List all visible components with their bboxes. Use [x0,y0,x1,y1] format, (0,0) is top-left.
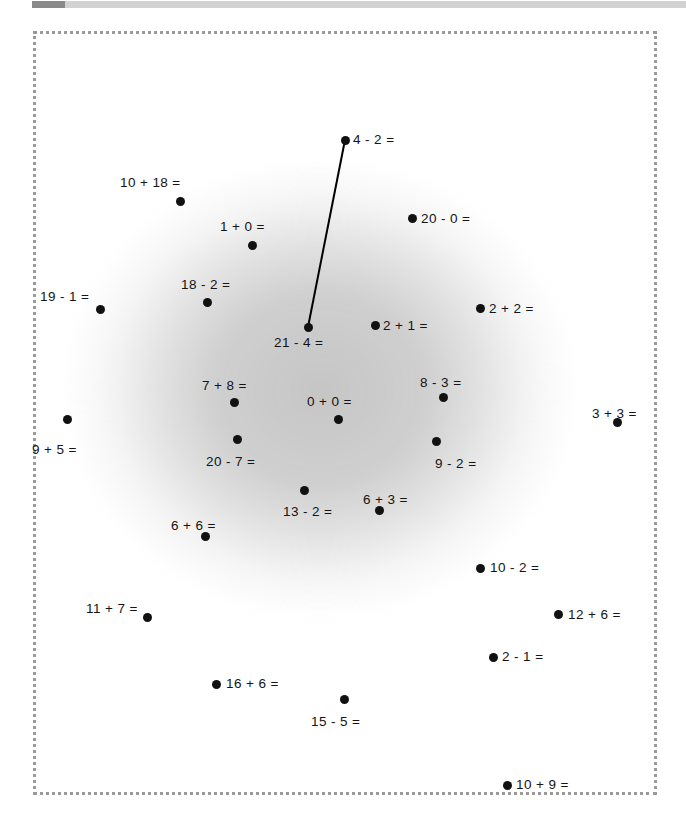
annotation-label: 2 - 1 = [502,650,543,664]
annotation-point[interactable] [503,781,512,790]
annotation-point[interactable] [371,321,380,330]
annotation-label: 2 + 2 = [489,302,534,316]
annotation-label: 20 - 0 = [421,212,470,226]
annotation-point[interactable] [439,393,448,402]
annotation-point[interactable] [248,241,257,250]
annotation-point[interactable] [96,305,105,314]
annotation-point[interactable] [340,695,349,704]
annotation-point[interactable] [230,398,239,407]
scrollbar-track[interactable] [32,1,686,8]
annotation-label: 6 + 6 = [171,519,216,533]
annotation-point[interactable] [476,564,485,573]
annotation-label: 9 + 5 = [32,443,77,457]
annotation-label: 0 + 0 = [307,395,352,409]
annotation-label: 15 - 5 = [311,715,360,729]
annotation-point[interactable] [334,415,343,424]
annotation-point[interactable] [300,486,309,495]
annotation-point[interactable] [63,415,72,424]
annotation-point[interactable] [143,613,152,622]
annotation-point[interactable] [176,197,185,206]
annotation-point-layer[interactable]: 4 - 2 =10 + 18 =1 + 0 =20 - 0 =19 - 1 =1… [0,9,686,813]
scanned-worksheet[interactable]: 4 - 2 =10 + 18 =1 + 0 =20 - 0 =19 - 1 =1… [0,9,686,813]
annotation-label: 16 + 6 = [226,677,279,691]
annotation-label: 9 - 2 = [435,457,476,471]
annotation-point[interactable] [432,437,441,446]
annotation-label: 7 + 8 = [202,379,247,393]
annotation-label: 10 - 2 = [490,561,539,575]
annotation-point[interactable] [304,323,313,332]
annotation-label: 8 - 3 = [420,376,461,390]
annotation-point[interactable] [489,653,498,662]
horizontal-scrollbar[interactable] [0,0,686,9]
annotation-label: 4 - 2 = [353,133,394,147]
annotation-label: 13 - 2 = [283,505,332,519]
annotation-canvas-app: 4 - 2 =10 + 18 =1 + 0 =20 - 0 =19 - 1 =1… [0,0,686,813]
annotation-point[interactable] [212,680,221,689]
annotation-point[interactable] [341,136,350,145]
annotation-point[interactable] [476,304,485,313]
annotation-label: 19 - 1 = [40,290,89,304]
annotation-point[interactable] [408,214,417,223]
annotation-label: 2 + 1 = [383,319,428,333]
annotation-label: 10 + 18 = [120,176,181,190]
annotation-label: 20 - 7 = [206,455,255,469]
annotation-label: 21 - 4 = [274,336,323,350]
annotation-label: 18 - 2 = [181,278,230,292]
annotation-point[interactable] [233,435,242,444]
annotation-point[interactable] [203,298,212,307]
annotation-label: 12 + 6 = [568,608,621,622]
annotation-label: 10 + 9 = [516,778,569,792]
annotation-point[interactable] [554,610,563,619]
annotation-label: 6 + 3 = [363,493,408,507]
scrollbar-thumb[interactable] [32,1,65,8]
annotation-label: 3 + 3 = [592,407,637,421]
annotation-label: 1 + 0 = [220,220,265,234]
annotation-label: 11 + 7 = [86,602,138,616]
